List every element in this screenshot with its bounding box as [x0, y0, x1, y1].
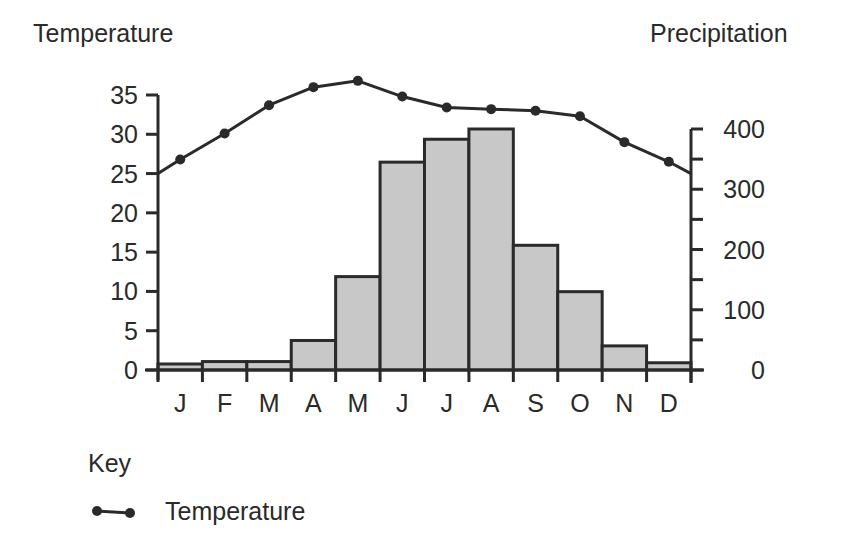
legend: [92, 506, 135, 518]
x-axis-month-label: N: [615, 389, 633, 417]
x-axis-month-label: F: [217, 389, 232, 417]
temperature-point: [397, 92, 407, 102]
temperature-point: [486, 104, 496, 114]
left-axis-tick-label: 20: [110, 199, 138, 227]
legend-entry-temperature: Temperature: [165, 497, 305, 526]
right-axis-tick-label: 0: [751, 356, 765, 384]
temperature-point: [619, 137, 629, 147]
precipitation-bar: [558, 292, 602, 370]
x-axis-month-label: A: [305, 389, 322, 417]
left-axis-tick-label: 35: [110, 81, 138, 109]
temperature-point: [442, 103, 452, 113]
temperature-point: [220, 129, 230, 139]
left-axis-tick-label: 5: [124, 317, 138, 345]
left-axis-tick-label: 10: [110, 277, 138, 305]
temperature-point: [575, 111, 585, 121]
x-axis-month-label: M: [347, 389, 368, 417]
legend-line-dot-icon: [92, 506, 102, 516]
right-axis-tick-label: 300: [723, 175, 765, 203]
x-axis-month-label: M: [259, 389, 280, 417]
x-axis-month-label: O: [570, 389, 589, 417]
temperature-point: [264, 100, 274, 110]
legend-line-dot-icon: [125, 508, 135, 518]
precipitation-bars: [158, 129, 691, 370]
right-axis-tick-label: 400: [723, 115, 765, 143]
precipitation-bar: [291, 340, 335, 370]
temperature-point: [353, 76, 363, 86]
x-axis-month-label: J: [440, 389, 453, 417]
left-axis-tick-label: 15: [110, 238, 138, 266]
x-axis-month-label: J: [396, 389, 409, 417]
precipitation-bar: [602, 346, 646, 370]
precipitation-bar: [336, 277, 380, 370]
right-axis-tick-label: 200: [723, 236, 765, 264]
temperature-point: [664, 157, 674, 167]
left-axis-tick-label: 30: [110, 120, 138, 148]
precipitation-bar: [513, 245, 557, 370]
precipitation-bar: [469, 129, 513, 370]
x-axis-month-label: A: [483, 389, 500, 417]
x-axis-month-label: D: [660, 389, 678, 417]
temperature-point: [531, 106, 541, 116]
x-axis-month-label: S: [527, 389, 544, 417]
x-axis-month-label: J: [174, 389, 187, 417]
left-axis-tick-label: 25: [110, 160, 138, 188]
legend-title: Key: [88, 449, 131, 478]
temperature-point: [175, 154, 185, 164]
left-axis-tick-label: 0: [124, 356, 138, 384]
precipitation-bar: [380, 162, 424, 370]
temperature-point: [308, 82, 318, 92]
right-axis-tick-label: 100: [723, 296, 765, 324]
precipitation-bar: [425, 139, 469, 370]
